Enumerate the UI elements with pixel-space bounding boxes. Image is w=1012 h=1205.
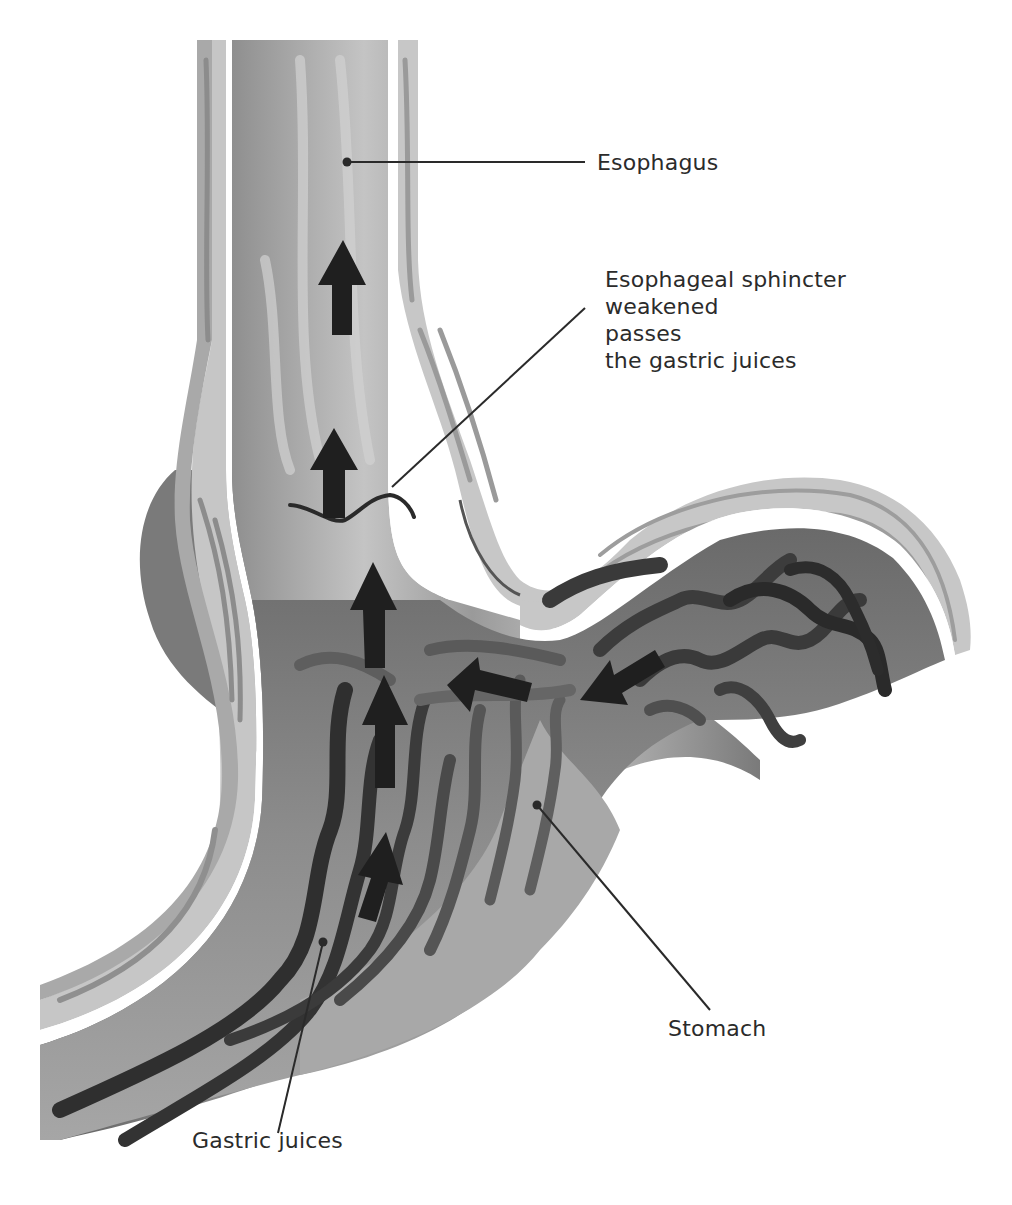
label-sphincter-line3: passes (605, 320, 846, 347)
label-gastric-juices: Gastric juices (192, 1127, 343, 1154)
esophagus-wall-right (388, 40, 620, 610)
label-esophagus-text: Esophagus (597, 149, 718, 176)
label-esophagus: Esophagus (597, 149, 718, 176)
label-sphincter-line4: the gastric juices (605, 347, 846, 374)
label-sphincter-line1: Esophageal sphincter (605, 266, 846, 293)
label-sphincter: Esophageal sphincter weakened passes the… (605, 266, 846, 374)
diagram-canvas: Esophagus Esophageal sphincter weakened … (0, 0, 1012, 1205)
reflux-illustration (0, 0, 1012, 1205)
label-sphincter-line2: weakened (605, 293, 846, 320)
label-stomach-text: Stomach (668, 1015, 766, 1042)
label-gastric-juices-text: Gastric juices (192, 1127, 343, 1154)
label-stomach: Stomach (668, 1015, 766, 1042)
